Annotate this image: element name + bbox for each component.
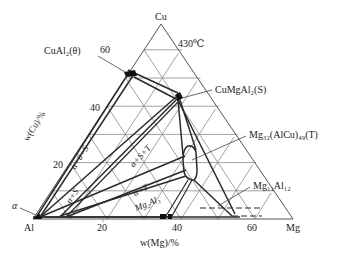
alpha-label: α	[12, 201, 17, 211]
theta-phase-marker	[124, 70, 137, 77]
grid-lines	[52, 50, 275, 219]
vertex-cu-label: Cu	[155, 12, 167, 22]
theta-phase-label: CuAl₂(θ)	[44, 46, 81, 56]
cu-tick-60: 60	[100, 45, 110, 55]
s-phase-label: CuMgAl₂(S)	[215, 85, 266, 95]
vertex-mg-label: Mg	[286, 223, 300, 233]
mg-tick-40: 40	[172, 223, 182, 233]
mg2al3-phase-marker	[160, 214, 166, 219]
vertex-al-label: Al	[24, 223, 34, 233]
cu-tick-20: 20	[53, 160, 63, 170]
mg-axis-title: w(Mg)/%	[140, 238, 179, 248]
mg11al12-label: Mg₁₁Al₁₂	[253, 181, 291, 191]
t-phase-label: Mg₃₂(AlCu)₄₉(T)	[249, 130, 318, 140]
mg-tick-60: 60	[247, 223, 257, 233]
temperature-label: 430℃	[178, 39, 204, 49]
mg-tick-20: 20	[97, 223, 107, 233]
ternary-phase-diagram	[0, 0, 337, 256]
cu-tick-40: 40	[90, 103, 100, 113]
mg2al3-phase-marker-2	[168, 214, 172, 219]
